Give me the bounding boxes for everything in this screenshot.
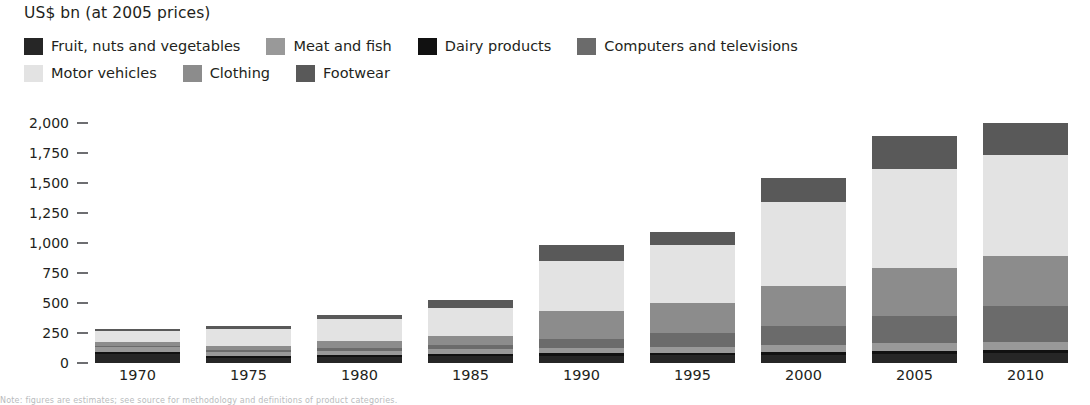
bar-segment [95, 331, 180, 342]
legend-row-2: Motor vehicles Clothing Footwear [24, 60, 1074, 87]
bar-segment [761, 355, 846, 363]
bar-segment [650, 303, 735, 333]
legend-item-dairy-products: Dairy products [418, 38, 552, 55]
bar-column[interactable] [983, 123, 1068, 363]
bar-segment [317, 357, 402, 363]
legend-swatch-icon [266, 38, 285, 55]
y-axis-tick: 2,000 [29, 116, 88, 130]
bar-segment [95, 354, 180, 363]
bar-column[interactable] [428, 300, 513, 363]
x-axis-tick-label: 1990 [539, 367, 624, 383]
y-axis-tick-mark [77, 332, 88, 334]
bar-segment [650, 333, 735, 346]
legend-item-clothing: Clothing [183, 65, 270, 82]
bar-segment [539, 261, 624, 311]
bar-segment [761, 326, 846, 345]
bar-segment [761, 178, 846, 202]
y-axis-tick-mark [77, 182, 88, 184]
bar-segment [983, 342, 1068, 350]
bar-segment [428, 336, 513, 345]
legend-item-label: Dairy products [445, 39, 552, 54]
y-axis-tick: 250 [42, 326, 88, 340]
y-axis-tick: 1,500 [29, 176, 88, 190]
bar-segment [872, 354, 957, 363]
bar-segment [206, 329, 291, 346]
bar-stack [317, 315, 402, 363]
bar-stack [761, 178, 846, 363]
legend-item-footwear: Footwear [296, 65, 390, 82]
y-axis: 2,0001,7501,5001,2501,0007505002500 [0, 112, 88, 355]
y-axis-tick-label: 2,000 [29, 115, 69, 131]
bar-segment [983, 155, 1068, 256]
y-axis-tick: 1,750 [29, 146, 88, 160]
bar-segment [983, 123, 1068, 155]
bar-segment [872, 268, 957, 316]
bar-segment [761, 202, 846, 286]
y-axis-tick-mark [77, 152, 88, 154]
chart-plot-area: 2,0001,7501,5001,2501,0007505002500 1970… [0, 112, 1090, 372]
y-axis-tick-label: 500 [42, 295, 69, 311]
legend-item-motor-vehicles: Motor vehicles [24, 65, 157, 82]
bar-column[interactable] [761, 178, 846, 363]
legend-item-label: Fruit, nuts and vegetables [51, 39, 240, 54]
bar-segment [539, 311, 624, 339]
bar-stack [95, 329, 180, 363]
y-axis-tick: 1,000 [29, 236, 88, 250]
legend-item-label: Meat and fish [293, 39, 391, 54]
y-axis-tick: 1,250 [29, 206, 88, 220]
bar-column[interactable] [95, 329, 180, 363]
legend-item-meat-and-fish: Meat and fish [266, 38, 391, 55]
bar-column[interactable] [650, 232, 735, 363]
y-axis-tick-label: 1,500 [29, 175, 69, 191]
x-axis-tick-label: 1970 [95, 367, 180, 383]
legend-item-label: Computers and televisions [604, 39, 798, 54]
y-axis-tick-mark [77, 302, 88, 304]
bar-column[interactable] [872, 136, 957, 363]
bar-segment [317, 341, 402, 348]
bar-segment [650, 245, 735, 304]
y-axis-tick-mark [77, 362, 88, 364]
legend-item-label: Motor vehicles [51, 66, 157, 81]
bar-segment [539, 356, 624, 363]
bar-group: 197019751980198519901995200020052010 [95, 123, 1085, 363]
y-axis-tick-mark [77, 212, 88, 214]
legend-swatch-icon [418, 38, 437, 55]
bar-segment [428, 300, 513, 308]
x-axis-tick-label: 1995 [650, 367, 735, 383]
bar-segment [872, 169, 957, 267]
y-axis-tick-label: 1,000 [29, 235, 69, 251]
bar-segment [206, 358, 291, 363]
legend-item-label: Clothing [210, 66, 270, 81]
bar-stack [428, 300, 513, 363]
y-axis-tick-mark [77, 122, 88, 124]
bar-segment [761, 345, 846, 352]
x-axis-tick-label: 1985 [428, 367, 513, 383]
legend-item-fruit-nuts-and-vegetables: Fruit, nuts and vegetables [24, 38, 240, 55]
legend-swatch-icon [183, 65, 202, 82]
y-axis-tick: 750 [42, 266, 88, 280]
bar-stack [206, 326, 291, 363]
x-axis-tick-label: 2010 [983, 367, 1068, 383]
y-axis-tick: 0 [60, 356, 88, 370]
bar-segment [983, 256, 1068, 306]
bar-segment [428, 356, 513, 363]
y-axis-tick-label: 1,250 [29, 205, 69, 221]
bar-segment [428, 308, 513, 336]
bar-segment [872, 316, 957, 344]
x-axis-tick-label: 2005 [872, 367, 957, 383]
chart-legend: Fruit, nuts and vegetables Meat and fish… [24, 33, 1074, 87]
legend-row-1: Fruit, nuts and vegetables Meat and fish… [24, 33, 1074, 60]
x-axis-tick-label: 1975 [206, 367, 291, 383]
legend-item-computers-and-televisions: Computers and televisions [577, 38, 798, 55]
y-axis-tick-label: 750 [42, 265, 69, 281]
bar-segment [650, 232, 735, 244]
legend-item-label: Footwear [323, 66, 390, 81]
y-axis-tick: 500 [42, 296, 88, 310]
bar-stack [650, 232, 735, 363]
bar-segment [317, 319, 402, 341]
y-axis-tick-mark [77, 272, 88, 274]
bar-column[interactable] [206, 326, 291, 363]
bar-segment [650, 355, 735, 363]
bar-column[interactable] [317, 315, 402, 363]
bar-column[interactable] [539, 245, 624, 363]
